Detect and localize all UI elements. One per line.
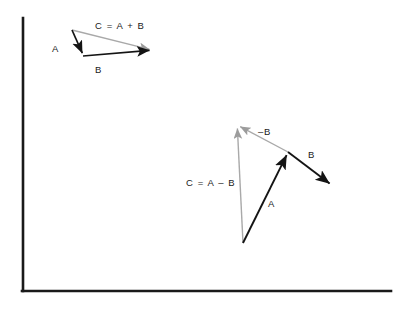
label-c-subtraction: C = A – B	[186, 177, 236, 188]
label-c-addition: C = A + B	[95, 20, 145, 31]
vector-a-addition-line	[72, 30, 82, 53]
label-a-subtraction: A	[268, 198, 275, 209]
label-a-addition: A	[52, 43, 59, 54]
vector-addition-diagram: C = A + B A B	[52, 20, 150, 75]
label-minus-b: –B	[258, 126, 271, 137]
diagram-page: C = A + B A B C = A – B –B B A	[0, 0, 396, 313]
vector-c-addition-line	[72, 30, 150, 49]
vector-subtraction-diagram: C = A – B –B B A	[186, 126, 330, 243]
label-b-subtraction: B	[308, 149, 315, 160]
vector-diagram-canvas: C = A + B A B C = A – B –B B A	[0, 0, 396, 313]
axis-frame	[22, 18, 391, 291]
vector-b-addition-line	[83, 50, 150, 56]
vector-c-subtraction-line	[237, 129, 243, 244]
vector-a-subtraction-line	[243, 155, 287, 243]
label-b-addition: B	[95, 64, 102, 75]
